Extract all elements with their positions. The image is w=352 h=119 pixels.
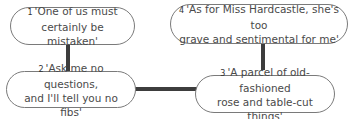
node-text-line1: 'One of us must — [35, 5, 118, 17]
node-text-line1: 'A parcel of old-fashioned — [227, 66, 309, 94]
node-text-line2: and I'll tell you no fibs' — [13, 91, 129, 119]
node-number: 2 — [38, 65, 43, 74]
node-number: 4 — [179, 6, 184, 15]
node-text-line1: 'As for Miss Hardcastle, she's too — [186, 3, 339, 31]
node-1: 1'One of us must certainly be mistaken' — [10, 7, 135, 45]
node-text-line2: rose and table-cut things' — [202, 95, 328, 119]
node-4: 4'As for Miss Hardcastle, she's too grav… — [170, 4, 348, 44]
node-number: 3 — [220, 69, 225, 78]
node-text-line1: 'Ask me no questions, — [44, 62, 104, 90]
node-number: 1 — [27, 8, 32, 17]
node-2: 2'Ask me no questions, and I'll tell you… — [6, 71, 136, 108]
node-text-line2: certainly be mistaken' — [17, 20, 128, 48]
node-text-line2: grave and sentimental for me' — [177, 32, 341, 46]
quote-diagram: 1'One of us must certainly be mistaken' … — [0, 0, 352, 119]
node-3: 3'A parcel of old-fashioned rose and tab… — [195, 75, 335, 113]
